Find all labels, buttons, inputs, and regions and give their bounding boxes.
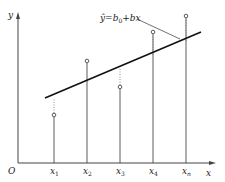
- point-n: [184, 14, 188, 18]
- point-1: [52, 113, 56, 117]
- diagram-canvas: ŷ=b0+bx y x O x1 x2 x3 x4 xn: [0, 0, 225, 182]
- point-4: [151, 30, 155, 34]
- x-axis-label: x: [206, 168, 211, 178]
- tick-label-x2: x2: [83, 166, 92, 177]
- equation-label: ŷ=b0+bx: [99, 13, 141, 24]
- tick-label-x4: x4: [149, 166, 158, 177]
- tick-label-x1: x1: [50, 166, 59, 177]
- origin-label: O: [8, 166, 16, 176]
- tick-label-x3: x3: [116, 166, 125, 177]
- tick-label-xn: xn: [182, 166, 191, 177]
- point-3: [118, 85, 122, 89]
- observation-lines: [54, 18, 186, 163]
- regression-line: [45, 32, 201, 98]
- equation-leader-line: [137, 19, 180, 39]
- y-axis-label: y: [7, 10, 14, 20]
- point-2: [85, 59, 89, 63]
- regression-diagram: ŷ=b0+bx y x O x1 x2 x3 x4 xn: [0, 0, 225, 182]
